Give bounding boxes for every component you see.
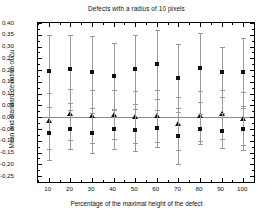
data-point-square: [133, 67, 137, 71]
y-axis-minor-tick: [252, 111, 254, 112]
data-point-square: [90, 131, 94, 135]
y-axis-tick: [250, 141, 254, 142]
error-bar-cap: [220, 47, 225, 48]
error-bar-cap: [47, 160, 52, 161]
y-axis-tick: [250, 129, 254, 130]
data-point-square: [68, 67, 72, 71]
error-bar-cap: [112, 90, 117, 91]
error-bar-cap: [47, 107, 52, 108]
y-axis-minor-tick: [38, 111, 40, 112]
plot-area: [37, 22, 255, 183]
x-axis-minor-tick: [232, 180, 233, 182]
error-bar-cap: [68, 35, 73, 36]
x-axis-tick: [200, 178, 201, 182]
error-bar-cap: [241, 38, 246, 39]
y-axis-tick: [38, 129, 42, 130]
x-axis-tick-label: 100: [230, 185, 254, 192]
y-axis-tick: [250, 153, 254, 154]
x-axis-tick-label: 90: [209, 185, 233, 192]
y-axis-tick-label: 0,20: [0, 66, 14, 73]
x-axis-minor-tick: [124, 23, 125, 25]
error-bar-cap: [112, 43, 117, 44]
x-axis-minor-tick: [189, 23, 190, 25]
x-axis-tick: [135, 178, 136, 182]
error-bar-cap: [133, 35, 138, 36]
y-axis-minor-tick: [38, 41, 40, 42]
x-axis-title: Percentage of the maximal height of the …: [0, 200, 273, 208]
x-axis-tick: [70, 23, 71, 27]
error-bar-cap: [90, 113, 95, 114]
y-axis-tick: [38, 47, 42, 48]
data-point-square: [176, 76, 180, 80]
error-bar-cap: [176, 108, 181, 109]
y-axis-tick: [250, 70, 254, 71]
x-axis-tick-label: 80: [187, 185, 211, 192]
y-axis-tick: [38, 153, 42, 154]
x-axis-tick: [157, 23, 158, 27]
y-axis-minor-tick: [38, 52, 40, 53]
x-axis-minor-tick: [60, 180, 61, 182]
y-axis-minor-tick: [38, 88, 40, 89]
error-bar-cap: [176, 97, 181, 98]
x-axis-tick: [222, 23, 223, 27]
error-bar-cap: [112, 110, 117, 111]
y-axis-minor-tick: [38, 76, 40, 77]
error-bar-cap: [198, 144, 203, 145]
y-axis-tick: [250, 58, 254, 59]
error-bar-cap: [241, 92, 246, 93]
y-axis-tick: [38, 117, 42, 118]
y-axis-minor-tick: [38, 158, 40, 159]
x-axis-minor-tick: [146, 180, 147, 182]
error-bar-cap: [155, 30, 160, 31]
y-axis-tick: [38, 94, 42, 95]
y-axis-tick: [38, 105, 42, 106]
y-axis-tick-label: -0,10: [0, 136, 14, 143]
y-axis-minor-tick: [252, 100, 254, 101]
error-bar-cap: [241, 150, 246, 151]
y-axis-minor-tick: [252, 41, 254, 42]
y-axis-tick-label: -0,20: [0, 160, 14, 167]
y-axis-tick: [38, 35, 42, 36]
y-axis-tick: [38, 141, 42, 142]
y-axis-tick-label: 0,05: [0, 101, 14, 108]
x-axis-tick: [92, 23, 93, 27]
error-bar-cap: [68, 89, 73, 90]
data-point-square: [198, 66, 202, 70]
y-axis-minor-tick: [38, 147, 40, 148]
data-point-square: [90, 70, 94, 74]
error-bar-cap: [112, 149, 117, 150]
data-point-square: [155, 126, 159, 130]
x-axis-minor-tick: [81, 180, 82, 182]
x-axis-tick: [49, 178, 50, 182]
y-axis-tick-label: 0,25: [0, 54, 14, 61]
y-axis-minor-tick: [38, 29, 40, 30]
x-axis-minor-tick: [103, 180, 104, 182]
y-axis-tick-label: 0,30: [0, 42, 14, 49]
x-axis-minor-tick: [146, 23, 147, 25]
x-axis-tick: [157, 178, 158, 182]
error-bar-cap: [198, 91, 203, 92]
y-axis-tick: [250, 47, 254, 48]
chart-figure: Defects with a radius of 10 pixels Perce…: [0, 0, 273, 220]
x-axis-tick: [92, 178, 93, 182]
y-axis-minor-tick: [252, 158, 254, 159]
y-axis-minor-tick: [252, 170, 254, 171]
error-bar-cap: [176, 44, 181, 45]
y-axis-tick-label: 0,35: [0, 30, 14, 37]
x-axis-tick-label: 40: [101, 185, 125, 192]
x-axis-minor-tick: [60, 23, 61, 25]
y-axis-tick-label: -0,25: [0, 172, 14, 179]
x-axis-minor-tick: [124, 180, 125, 182]
x-axis-tick-label: 60: [144, 185, 168, 192]
data-point-square: [241, 127, 245, 131]
y-axis-tick: [250, 35, 254, 36]
x-axis-tick: [114, 23, 115, 27]
error-bar-cap: [68, 110, 73, 111]
error-bar-cap: [90, 153, 95, 154]
y-axis-minor-tick: [252, 64, 254, 65]
y-axis-minor-tick: [38, 100, 40, 101]
data-point-square: [68, 127, 72, 131]
y-axis-tick: [250, 94, 254, 95]
y-axis-tick: [250, 105, 254, 106]
y-axis-tick: [38, 164, 42, 165]
